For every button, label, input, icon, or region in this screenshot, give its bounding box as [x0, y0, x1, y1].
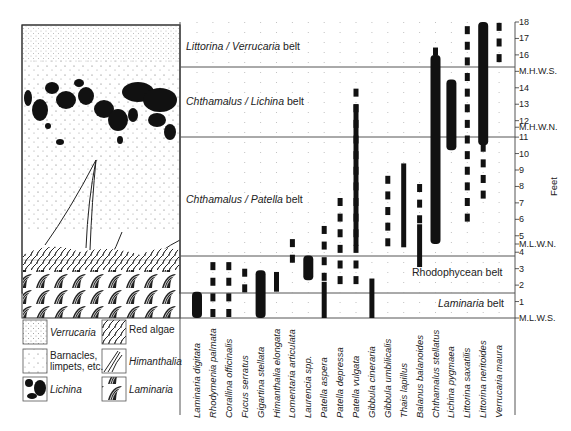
range-dash — [465, 73, 470, 81]
y-tick-label: 7 — [519, 198, 524, 208]
range-dash — [322, 226, 327, 234]
legend-barnacles-swatch — [23, 349, 47, 373]
species-label: Corallina officinalis — [223, 339, 234, 418]
range-dash — [290, 239, 295, 247]
range-dash — [354, 245, 359, 253]
range-dash — [417, 184, 422, 192]
range-dash — [226, 278, 231, 286]
y-tick-label: 1 — [519, 297, 524, 307]
range-dash — [338, 214, 343, 222]
species-label: Gibbula umbilicalis — [382, 339, 393, 418]
y-tick-label: 2 — [519, 280, 524, 290]
range-dash — [417, 200, 422, 208]
range-dash — [497, 54, 502, 62]
species-label: Lomentaria articulata — [286, 329, 297, 418]
range-dash — [465, 198, 470, 206]
range-dash — [226, 293, 231, 301]
range-dash — [433, 48, 438, 56]
range-dash — [290, 255, 295, 263]
range-bar — [431, 55, 441, 244]
range-dash — [354, 89, 359, 97]
range-dash — [338, 229, 343, 237]
range-bar — [192, 292, 202, 318]
range-dash — [338, 198, 343, 206]
range-dash — [385, 176, 390, 184]
species-label: Himanthalia elongata — [271, 329, 282, 418]
species-label: Patella depressa — [334, 347, 345, 418]
range-bar — [401, 163, 406, 247]
range-dash — [322, 257, 327, 265]
range-dash — [338, 245, 343, 253]
y-tick-label: 11 — [519, 132, 528, 142]
species-label: Rhodymenia palmata — [207, 328, 218, 418]
y-tick-label: 8 — [519, 181, 524, 191]
range-dash — [354, 260, 359, 268]
species-label: Patella aspera — [318, 357, 329, 418]
range-bar — [417, 224, 422, 267]
range-dash — [465, 42, 470, 50]
tide-mark-label: M.L.W.S. — [519, 313, 556, 323]
range-dash — [385, 238, 390, 246]
range-bar — [256, 270, 266, 318]
y-axis-title: Feet — [548, 177, 559, 196]
species-label: Laminaria digitata — [191, 343, 202, 418]
belt-label-chthamalus-lichina: Chthamalus / Lichina belt — [186, 95, 304, 107]
range-dash — [354, 276, 359, 284]
legend-label-barnacles: Barnacles,limpets, etc. — [50, 350, 103, 372]
range-dash — [338, 260, 343, 268]
range-dash — [226, 309, 231, 317]
range-dash — [210, 262, 215, 270]
range-dash — [322, 273, 327, 281]
range-dash — [385, 223, 390, 231]
range-bar — [446, 80, 456, 151]
range-bar — [303, 256, 313, 281]
range-bar — [369, 279, 374, 318]
species-label: Gibbula cineraria — [366, 346, 377, 418]
species-label: Laurencia spp. — [302, 356, 313, 418]
range-dash — [465, 89, 470, 97]
legend-red-algae-swatch — [102, 320, 126, 344]
range-bar — [274, 272, 279, 292]
y-tick-label: 14 — [519, 83, 529, 93]
range-dash — [385, 191, 390, 199]
range-dash — [481, 191, 486, 199]
belt-label-rhodophycean: Rhodophycean belt — [412, 266, 503, 278]
range-dash — [322, 242, 327, 250]
range-dash — [465, 57, 470, 65]
range-dash — [481, 175, 486, 183]
range-dash — [497, 38, 502, 46]
range-dash — [226, 262, 231, 270]
tide-mark-label: M.L.W.N. — [519, 239, 556, 249]
range-dash — [465, 120, 470, 128]
range-bar — [354, 104, 359, 245]
species-label: Lichina pygmaea — [445, 346, 456, 418]
range-dash — [465, 151, 470, 159]
range-dash — [338, 276, 343, 284]
range-dash — [210, 278, 215, 286]
y-tick-label: 3 — [519, 264, 524, 274]
shore-illustration — [22, 25, 180, 318]
species-label: Patella vulgata — [350, 356, 361, 418]
legend-laminaria-swatch — [102, 377, 126, 401]
range-dash — [385, 207, 390, 215]
y-tick-label: 18 — [519, 17, 529, 27]
species-label: Littorina neritoides — [477, 340, 488, 418]
y-tick-label: 13 — [519, 99, 529, 109]
range-dash — [465, 26, 470, 34]
belt-label-laminaria: Laminaria belt — [438, 297, 504, 309]
species-label: Thais lapillus — [398, 363, 409, 418]
legend-label-laminaria: Laminaria — [129, 384, 173, 395]
range-dash — [465, 182, 470, 190]
range-dash — [465, 136, 470, 144]
range-dash — [242, 269, 247, 277]
range-dash — [465, 167, 470, 175]
legend-label-himanthalia: Himanthalia — [129, 356, 182, 367]
range-dash — [465, 214, 470, 222]
legend-label-lichina: Lichina — [50, 384, 82, 395]
range-dash — [210, 309, 215, 317]
legend-label-red-algae: Red algae — [129, 324, 175, 335]
y-tick-label: 10 — [519, 149, 529, 159]
y-tick-label: 17 — [519, 33, 529, 43]
tide-mark-label: M.H.W.S. — [519, 66, 557, 76]
belt-label-chthamalus-patella: Chthamalus / Patella belt — [186, 193, 303, 205]
